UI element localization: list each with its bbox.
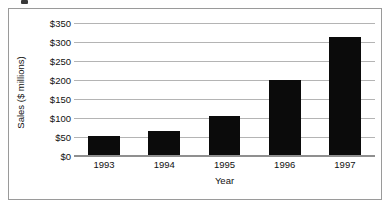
y-axis-tick-labels: $0$50$100$150$200$250$300$350 bbox=[27, 9, 71, 201]
bar-series bbox=[74, 23, 375, 156]
bar bbox=[209, 116, 241, 156]
bar bbox=[329, 37, 361, 156]
y-axis-tick-label: $150 bbox=[27, 94, 71, 105]
x-axis-title: Year bbox=[74, 175, 375, 186]
x-axis-tick-label: 1997 bbox=[334, 159, 355, 170]
y-axis-tick-label: $100 bbox=[27, 113, 71, 124]
y-axis-tick-label: $300 bbox=[27, 37, 71, 48]
plot-area bbox=[74, 23, 375, 156]
x-axis-tick-labels: 19931994199519961997 bbox=[74, 159, 375, 173]
x-axis-tick-label: 1994 bbox=[154, 159, 175, 170]
y-axis-tick-label: $250 bbox=[27, 56, 71, 67]
y-axis-tick-label: $0 bbox=[27, 151, 71, 162]
y-axis-tick-label: $350 bbox=[27, 18, 71, 29]
y-axis-tick-label: $50 bbox=[27, 132, 71, 143]
chart-frame: Sales ($ millions) $0$50$100$150$200$250… bbox=[8, 8, 382, 200]
gridline bbox=[74, 156, 375, 157]
cropped-bullet-artifact bbox=[21, 0, 28, 4]
y-axis-title-text: Sales ($ millions) bbox=[15, 56, 26, 128]
bar bbox=[88, 136, 120, 156]
x-axis-tick-label: 1993 bbox=[94, 159, 115, 170]
x-axis-tick-label: 1996 bbox=[274, 159, 295, 170]
y-axis-title: Sales ($ millions) bbox=[12, 27, 28, 157]
bar-chart-figure: Sales ($ millions) $0$50$100$150$200$250… bbox=[0, 0, 391, 208]
y-axis-tick-label: $200 bbox=[27, 75, 71, 86]
bar bbox=[148, 131, 180, 156]
x-axis-tick-label: 1995 bbox=[214, 159, 235, 170]
plot-wrapper: Sales ($ millions) $0$50$100$150$200$250… bbox=[9, 9, 383, 201]
x-axis-line bbox=[74, 155, 375, 156]
bar bbox=[269, 80, 301, 156]
